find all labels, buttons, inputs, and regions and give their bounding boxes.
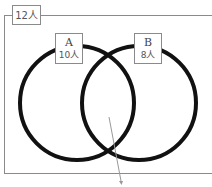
pointer-arrowhead-icon	[119, 181, 123, 185]
universe-total-text: 12人	[15, 10, 38, 21]
set-b-label: B 8人	[134, 33, 162, 64]
set-a-count: 10人	[56, 49, 82, 61]
set-b-name: B	[135, 37, 161, 49]
set-a-name: A	[56, 37, 82, 49]
venn-diagram	[0, 0, 212, 187]
universe-total-label: 12人	[12, 5, 41, 25]
set-a-label: A 10人	[55, 33, 83, 64]
set-b-count: 8人	[135, 49, 161, 61]
